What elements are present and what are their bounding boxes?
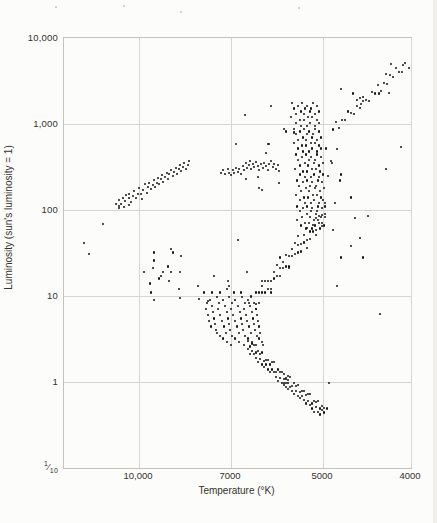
page-edge-shading	[433, 0, 437, 523]
data-point	[294, 168, 296, 170]
data-point	[208, 320, 210, 322]
data-point	[287, 382, 289, 384]
data-point	[147, 186, 149, 188]
data-point	[257, 320, 259, 322]
data-point	[319, 190, 321, 192]
data-point	[219, 335, 221, 337]
data-point	[303, 196, 305, 198]
data-point	[318, 176, 320, 178]
x-gridline	[323, 38, 324, 468]
data-point	[227, 317, 229, 319]
data-point	[261, 280, 263, 282]
data-point	[309, 238, 311, 240]
data-point	[302, 150, 304, 152]
data-point	[385, 73, 387, 75]
data-point	[256, 314, 258, 316]
data-point	[311, 402, 313, 404]
data-point	[295, 153, 297, 155]
data-point	[314, 159, 316, 161]
data-point	[318, 130, 320, 132]
data-point	[265, 165, 267, 167]
data-point	[306, 213, 308, 215]
data-point	[305, 144, 307, 146]
data-point	[239, 311, 241, 313]
data-point	[210, 325, 212, 327]
data-point	[143, 271, 145, 273]
data-point	[178, 288, 180, 290]
data-point	[232, 314, 234, 316]
data-point	[318, 110, 320, 112]
data-point	[306, 239, 308, 241]
data-point	[272, 166, 274, 168]
data-point	[311, 181, 313, 183]
data-point	[367, 215, 369, 217]
data-point	[313, 173, 315, 175]
data-point	[323, 411, 325, 413]
data-point	[318, 202, 320, 204]
data-point	[299, 164, 301, 166]
data-point	[265, 363, 267, 365]
data-point	[305, 402, 307, 404]
data-point	[183, 162, 185, 164]
data-point	[255, 291, 257, 293]
data-point	[244, 302, 246, 304]
data-point	[300, 250, 302, 252]
data-point	[311, 207, 313, 209]
data-point	[247, 340, 249, 342]
data-point	[124, 200, 126, 202]
data-point	[226, 311, 228, 313]
data-point	[277, 164, 279, 166]
data-point	[115, 203, 117, 205]
data-point	[307, 400, 309, 402]
data-point	[303, 399, 305, 401]
data-point	[228, 323, 230, 325]
data-point	[299, 173, 301, 175]
data-point	[301, 144, 303, 146]
data-point	[340, 88, 342, 90]
data-point	[152, 267, 154, 269]
data-point	[226, 341, 228, 343]
data-point	[324, 213, 326, 215]
data-point	[170, 248, 172, 250]
data-point	[249, 353, 251, 355]
data-point	[371, 91, 373, 93]
data-point	[314, 113, 316, 115]
data-point	[246, 167, 248, 169]
data-point	[238, 332, 240, 334]
data-point	[187, 164, 189, 166]
y-tick-label: 10	[47, 290, 58, 301]
data-point	[304, 162, 306, 164]
data-point	[270, 160, 272, 162]
data-point	[206, 302, 208, 304]
data-point	[158, 277, 160, 279]
data-point	[293, 128, 295, 130]
data-point	[291, 385, 293, 387]
data-point	[297, 251, 299, 253]
data-point	[350, 112, 352, 114]
data-point	[365, 99, 367, 101]
data-point	[258, 169, 260, 171]
data-point	[259, 332, 261, 334]
data-point	[176, 173, 178, 175]
data-point	[240, 291, 242, 293]
data-point	[170, 169, 172, 171]
data-point	[123, 206, 125, 208]
data-point	[295, 194, 297, 196]
x-axis-title: Temperature (°K)	[63, 485, 410, 496]
data-point	[291, 255, 293, 257]
data-point	[308, 150, 310, 152]
data-point	[255, 161, 257, 163]
data-point	[261, 291, 263, 293]
data-point	[306, 179, 308, 181]
data-point	[243, 344, 245, 346]
data-point	[153, 251, 155, 253]
data-point	[251, 311, 253, 313]
data-point	[339, 179, 341, 181]
data-point	[377, 84, 379, 86]
x-tick-label: 5000	[311, 470, 332, 481]
data-point	[297, 384, 299, 386]
data-point	[279, 267, 281, 269]
data-point	[316, 210, 318, 212]
data-point	[302, 136, 304, 138]
data-point	[278, 182, 280, 184]
